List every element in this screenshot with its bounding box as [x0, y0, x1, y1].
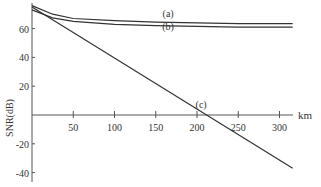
y-tick-label: -20: [16, 139, 29, 150]
snr-vs-distance-chart: 50100150200250300604020-20-40 (a)(b)(c) …: [0, 0, 321, 187]
y-axis-label: SNR(dB): [4, 99, 16, 137]
x-tick-label: 150: [148, 122, 163, 133]
chart-svg: 50100150200250300604020-20-40 (a)(b)(c) …: [0, 0, 321, 187]
x-tick-label: 50: [68, 122, 78, 133]
series-label: (b): [162, 21, 174, 33]
y-tick-label: 60: [19, 24, 29, 35]
x-tick-label: 300: [272, 122, 287, 133]
x-axis-label: km: [298, 109, 313, 121]
y-tick-label: 20: [19, 81, 29, 92]
x-tick-label: 200: [190, 122, 205, 133]
series-labels: (a)(b)(c): [162, 8, 206, 111]
series-label: (c): [196, 99, 207, 111]
x-tick-label: 100: [107, 122, 122, 133]
series-label: (a): [163, 8, 174, 20]
y-tick-label: 40: [19, 52, 29, 63]
ticks: 50100150200250300604020-20-40: [16, 24, 287, 179]
y-tick-label: -40: [16, 168, 29, 179]
